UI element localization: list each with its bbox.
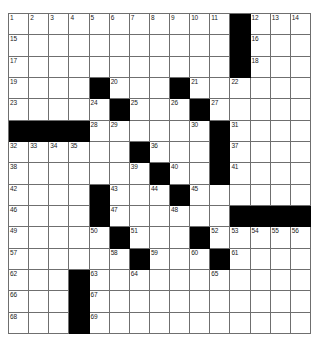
crossword-cell[interactable]: 1 [9,14,29,35]
crossword-cell[interactable]: 26 [170,99,190,120]
crossword-cell[interactable] [130,206,150,227]
crossword-cell[interactable] [230,270,250,291]
crossword-cell[interactable]: 21 [190,78,210,99]
crossword-cell[interactable] [170,35,190,56]
crossword-cell[interactable] [291,35,311,56]
crossword-cell[interactable] [271,35,291,56]
crossword-cell[interactable]: 3 [49,14,69,35]
crossword-cell[interactable] [251,99,271,120]
crossword-cell[interactable] [210,313,230,334]
crossword-cell[interactable]: 6 [110,14,130,35]
crossword-cell[interactable]: 52 [210,227,230,248]
crossword-cell[interactable] [29,270,49,291]
crossword-cell[interactable] [150,78,170,99]
crossword-cell[interactable] [170,313,190,334]
crossword-cell[interactable]: 41 [230,163,250,184]
crossword-cell[interactable]: 9 [170,14,190,35]
crossword-cell[interactable]: 16 [251,35,271,56]
crossword-cell[interactable]: 67 [90,291,110,312]
crossword-cell[interactable] [170,270,190,291]
crossword-cell[interactable]: 25 [130,99,150,120]
crossword-cell[interactable] [90,142,110,163]
crossword-cell[interactable]: 62 [9,270,29,291]
crossword-cell[interactable] [130,78,150,99]
crossword-cell[interactable] [251,313,271,334]
crossword-cell[interactable] [251,163,271,184]
crossword-cell[interactable]: 31 [230,121,250,142]
crossword-cell[interactable]: 13 [271,14,291,35]
crossword-cell[interactable] [69,35,89,56]
crossword-cell[interactable] [251,142,271,163]
crossword-cell[interactable] [90,249,110,270]
crossword-cell[interactable] [150,121,170,142]
crossword-cell[interactable]: 57 [9,249,29,270]
crossword-cell[interactable]: 63 [90,270,110,291]
crossword-cell[interactable] [49,291,69,312]
crossword-cell[interactable] [291,142,311,163]
crossword-cell[interactable] [110,291,130,312]
crossword-cell[interactable] [130,313,150,334]
crossword-cell[interactable] [29,227,49,248]
crossword-cell[interactable] [291,291,311,312]
crossword-cell[interactable]: 8 [150,14,170,35]
crossword-cell[interactable] [90,35,110,56]
crossword-cell[interactable] [271,291,291,312]
crossword-cell[interactable] [170,57,190,78]
crossword-cell[interactable] [251,270,271,291]
crossword-cell[interactable] [69,227,89,248]
crossword-cell[interactable] [210,206,230,227]
crossword-cell[interactable] [291,121,311,142]
crossword-cell[interactable] [90,163,110,184]
crossword-cell[interactable]: 22 [230,78,250,99]
crossword-cell[interactable] [271,313,291,334]
crossword-cell[interactable] [170,142,190,163]
crossword-cell[interactable] [230,185,250,206]
crossword-cell[interactable] [291,185,311,206]
crossword-cell[interactable]: 58 [110,249,130,270]
crossword-cell[interactable] [251,291,271,312]
crossword-cell[interactable]: 53 [230,227,250,248]
crossword-cell[interactable] [150,57,170,78]
crossword-cell[interactable] [29,291,49,312]
crossword-cell[interactable] [49,313,69,334]
crossword-cell[interactable]: 46 [9,206,29,227]
crossword-cell[interactable] [271,142,291,163]
crossword-cell[interactable] [210,291,230,312]
crossword-cell[interactable]: 12 [251,14,271,35]
crossword-cell[interactable]: 50 [90,227,110,248]
crossword-cell[interactable]: 56 [291,227,311,248]
crossword-cell[interactable] [210,185,230,206]
crossword-cell[interactable]: 27 [210,99,230,120]
crossword-cell[interactable]: 24 [90,99,110,120]
crossword-cell[interactable]: 2 [29,14,49,35]
crossword-cell[interactable] [230,99,250,120]
crossword-cell[interactable] [190,206,210,227]
crossword-cell[interactable]: 23 [9,99,29,120]
crossword-cell[interactable] [150,270,170,291]
crossword-cell[interactable] [150,35,170,56]
crossword-cell[interactable] [271,121,291,142]
crossword-cell[interactable] [291,313,311,334]
crossword-cell[interactable] [291,270,311,291]
crossword-cell[interactable] [69,206,89,227]
crossword-cell[interactable] [291,163,311,184]
crossword-cell[interactable] [271,163,291,184]
crossword-cell[interactable]: 64 [130,270,150,291]
crossword-cell[interactable]: 51 [130,227,150,248]
crossword-cell[interactable]: 40 [170,163,190,184]
crossword-cell[interactable] [69,163,89,184]
crossword-cell[interactable]: 32 [9,142,29,163]
crossword-cell[interactable] [190,57,210,78]
crossword-cell[interactable] [271,249,291,270]
crossword-cell[interactable] [190,291,210,312]
crossword-cell[interactable] [49,227,69,248]
crossword-cell[interactable] [130,35,150,56]
crossword-cell[interactable]: 4 [69,14,89,35]
crossword-cell[interactable] [110,57,130,78]
crossword-cell[interactable]: 11 [210,14,230,35]
crossword-cell[interactable]: 37 [230,142,250,163]
crossword-cell[interactable] [49,185,69,206]
crossword-cell[interactable] [49,99,69,120]
crossword-cell[interactable] [29,57,49,78]
crossword-grid[interactable]: 1234567891011121314151617181920212223242… [8,13,311,334]
